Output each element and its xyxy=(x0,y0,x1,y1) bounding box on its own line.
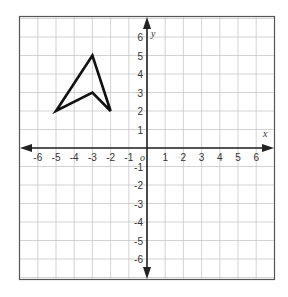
x-tick-label: 2 xyxy=(181,152,187,163)
coordinate-plane: -6-5-4-3-2-1123456654321-1-2-3-4-5-6 x y… xyxy=(0,0,288,297)
x-tick-label: 1 xyxy=(162,152,168,163)
x-tick-label: -2 xyxy=(106,152,115,163)
y-tick-label: -6 xyxy=(134,254,143,265)
x-tick-label: -1 xyxy=(124,152,133,163)
y-axis-label: y xyxy=(150,28,156,39)
origin-label: o xyxy=(140,152,145,163)
y-tick-label: 4 xyxy=(137,69,143,80)
x-tick-label: 5 xyxy=(235,152,241,163)
y-tick-label: -4 xyxy=(134,217,143,228)
y-tick-label: 6 xyxy=(137,32,143,43)
x-tick-label: 4 xyxy=(217,152,223,163)
x-tick-label: -6 xyxy=(33,152,42,163)
x-tick-label: -3 xyxy=(88,152,97,163)
y-tick-label: -5 xyxy=(134,236,143,247)
x-tick-label: 6 xyxy=(253,152,259,163)
y-tick-label: 1 xyxy=(137,125,143,136)
y-tick-label: 5 xyxy=(137,51,143,62)
y-tick-label: -3 xyxy=(134,199,143,210)
x-axis-label: x xyxy=(262,128,268,139)
y-tick-label: 3 xyxy=(137,88,143,99)
y-tick-label: 2 xyxy=(137,106,143,117)
y-tick-label: -1 xyxy=(134,162,143,173)
y-tick-label: -2 xyxy=(134,180,143,191)
x-tick-label: 3 xyxy=(199,152,205,163)
x-tick-label: -5 xyxy=(52,152,61,163)
x-tick-label: -4 xyxy=(70,152,79,163)
